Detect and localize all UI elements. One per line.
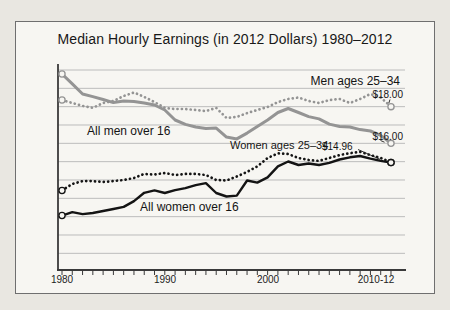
series-line-women-ages-25-34 (62, 152, 391, 191)
series-value-men-25-34: $18.00 (372, 89, 403, 100)
x-tick-label: 1990 (154, 274, 176, 285)
series-endpoint-marker (59, 97, 65, 103)
value-leader-line (389, 100, 390, 104)
series-endpoint-marker (59, 212, 65, 218)
series-value-all-men: $16.00 (372, 131, 403, 142)
series-value-women-25-34: $14.96 (322, 141, 353, 152)
x-tick-label: 1980 (51, 274, 73, 285)
chart-title: Median Hourly Earnings (in 2012 Dollars)… (15, 31, 435, 47)
screenshot-background: Median Hourly Earnings (in 2012 Dollars)… (0, 0, 450, 310)
series-endpoint-marker (388, 104, 394, 110)
series-label-women-25-34: Women ages 25–34 (230, 139, 328, 151)
series-label-men-25-34: Men ages 25–34 (311, 74, 400, 88)
series-label-all-men: All men over 16 (87, 124, 170, 138)
series-label-all-women: All women over 16 (140, 200, 239, 214)
series-endpoint-marker (59, 71, 65, 77)
series-endpoint-marker (388, 159, 394, 165)
x-tick-label: 2000 (257, 274, 279, 285)
x-tick-label: 2010-12 (358, 274, 395, 285)
series-line-men-ages-25-34 (62, 93, 391, 119)
series-endpoint-marker (59, 187, 65, 193)
